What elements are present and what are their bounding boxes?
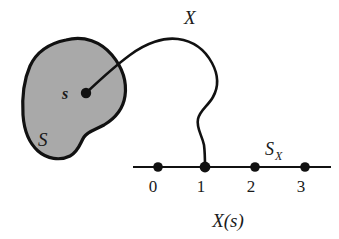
mapped-value-label: X(s) <box>211 210 244 232</box>
axis-dot-3 <box>300 162 310 172</box>
range-space-label: SX <box>265 139 283 163</box>
mapping-label: X <box>183 7 197 28</box>
axis-tick-label-0: 0 <box>149 177 158 196</box>
range-space-label-subscript: X <box>274 149 283 163</box>
axis-dot-2 <box>250 162 260 172</box>
axis-dot-1 <box>200 162 211 173</box>
sample-point-label: s <box>61 85 68 102</box>
figure-canvas: S s X SX 0 1 2 3 X(s) <box>0 0 339 239</box>
range-space-label-base: S <box>265 139 274 159</box>
axis-dot-0 <box>153 162 163 172</box>
axis-tick-label-1: 1 <box>197 177 206 196</box>
axis-tick-label-3: 3 <box>297 177 306 196</box>
sample-space-label: S <box>38 129 48 150</box>
axis-tick-label-2: 2 <box>247 177 256 196</box>
diagram-svg: S s X SX 0 1 2 3 X(s) <box>0 0 339 239</box>
sample-point-dot <box>81 88 91 98</box>
